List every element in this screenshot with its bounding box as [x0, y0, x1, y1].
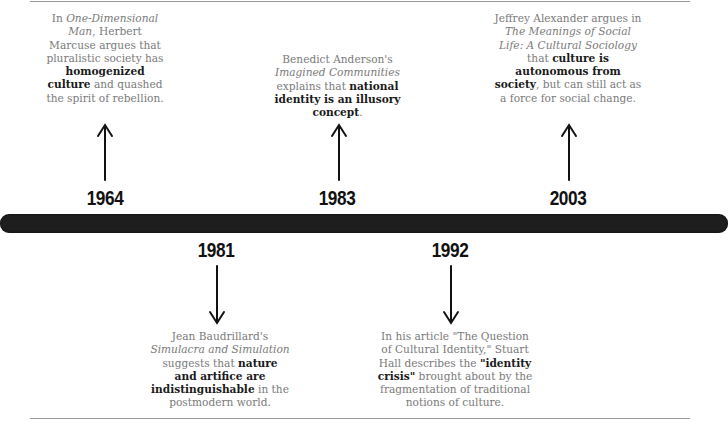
body-text: In: [52, 12, 66, 24]
event-1983-description: Benedict Anderson's Imagined Communities…: [270, 53, 405, 119]
arrow-down-icon: [207, 264, 227, 326]
body-text: .: [359, 106, 362, 118]
top-divider: [30, 1, 690, 2]
title-text: Imagined Communities: [275, 66, 400, 78]
arrow-up-icon: [329, 122, 349, 182]
event-1983-year: 1983: [308, 186, 365, 210]
body-text: explains that: [277, 80, 350, 92]
event-1992-description: In his article "The Question of Cultural…: [377, 330, 533, 410]
title-text: Simulacra and Simulation: [150, 343, 289, 355]
arrow-up-icon: [95, 122, 115, 182]
body-text: Jean Baudrillard's: [172, 330, 268, 342]
arrow-up-icon: [559, 122, 579, 182]
body-text: suggests that: [162, 357, 238, 369]
event-2003-description: Jeffrey Alexander argues in The Meanings…: [492, 12, 644, 105]
event-1981-year: 1981: [187, 238, 244, 262]
timeline-bar: [0, 214, 728, 233]
body-text: , Herbert Marcuse argues that pluralisti…: [46, 25, 163, 64]
event-1964-year: 1964: [76, 186, 133, 210]
arrow-down-icon: [441, 264, 461, 326]
event-1964-description: In One-Dimensional Man, Herbert Marcuse …: [45, 12, 165, 105]
title-text: The Meanings of Social Life: A Cultural …: [499, 25, 637, 50]
event-1992-year: 1992: [421, 238, 478, 262]
bottom-divider: [30, 418, 690, 419]
body-text: Benedict Anderson's: [282, 53, 392, 65]
body-text: Jeffrey Alexander argues in: [495, 12, 642, 24]
event-1981-description: Jean Baudrillard's Simulacra and Simulat…: [150, 330, 290, 410]
event-2003-year: 2003: [539, 186, 596, 210]
body-text: that: [527, 52, 552, 64]
